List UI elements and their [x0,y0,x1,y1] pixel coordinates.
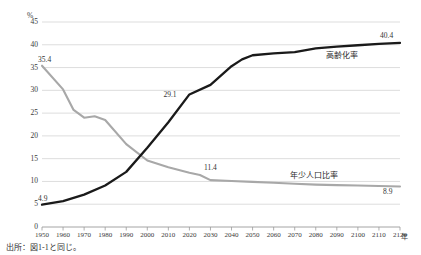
y-tick-35: 35 [18,63,38,72]
x-axis-unit-label: 年 [401,231,408,241]
series-label-youth-population-ratio: 年少人口比率 [290,169,338,180]
value-label-11-4: 11.4 [204,163,217,172]
y-tick-30: 30 [18,85,38,94]
value-label-35-4: 35.4 [38,55,51,64]
x-tick-2120: 2120 [387,231,413,239]
y-tick-0: 0 [18,222,38,231]
y-tick-20: 20 [18,131,38,140]
value-label-8-9: 8.9 [383,187,392,196]
figure-container: % 051015202530354045 1950196019701980199… [0,0,421,255]
axis-tick-marks [42,227,400,231]
y-tick-40: 40 [18,40,38,49]
source-note: 出所：図1-1と同じ。 [6,241,81,252]
y-tick-25: 25 [18,108,38,117]
y-tick-10: 10 [18,176,38,185]
value-label-40-4: 40.4 [380,31,393,40]
line-youth-population-ratio [42,66,400,187]
y-tick-45: 45 [18,17,38,26]
y-tick-15: 15 [18,154,38,163]
value-label-4-9: 4.9 [38,194,47,203]
series-label-aging-rate: 高齢化率 [326,49,358,60]
y-tick-5: 5 [18,199,38,208]
value-label-29-1: 29.1 [163,90,176,99]
